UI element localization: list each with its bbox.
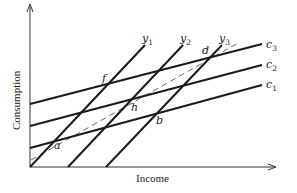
line-y3 [106,45,222,167]
point-label-a: a [54,139,61,152]
label-c2: c2 [266,58,277,73]
point-label-b: b [156,114,163,127]
line-y1 [30,45,145,167]
consumption-income-diagram: y1 y2 y3 c3 c2 c1 f h d a b Income Consu… [0,0,297,193]
label-y2: y2 [179,32,191,47]
label-y1: y1 [141,32,153,47]
label-c3: c3 [266,38,277,53]
point-label-f: f [101,72,108,85]
y-axis-label: Consumption [10,70,22,130]
point-label-h: h [131,101,138,114]
x-axis-label: Income [136,172,169,184]
label-c1: c1 [266,78,277,93]
label-y3: y3 [218,32,230,47]
consumption-lines [30,44,262,148]
point-label-d: d [202,44,209,57]
line-y2 [68,45,183,167]
axes [27,4,276,170]
